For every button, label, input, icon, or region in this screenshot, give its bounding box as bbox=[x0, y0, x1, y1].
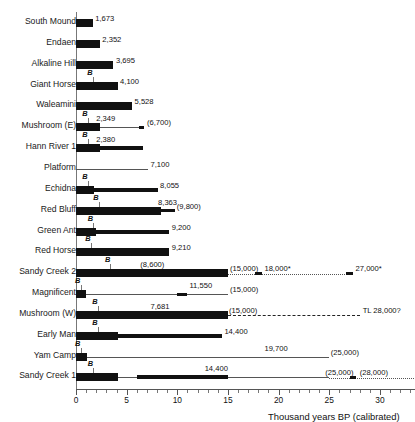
value-label: (8,600) bbox=[140, 261, 164, 269]
bar-segment-medium bbox=[118, 334, 222, 338]
b-marker-label: B bbox=[75, 340, 80, 348]
value-label: 2,380 bbox=[96, 136, 115, 144]
row-plot-area: (8,600)(15,000)18,000*27,000*B bbox=[76, 260, 414, 281]
category-label: Platform bbox=[44, 162, 76, 172]
chart-row: Platform7,100 bbox=[0, 156, 414, 177]
value-label: 2,352 bbox=[102, 36, 121, 44]
row-plot-area: 4,100B bbox=[76, 73, 414, 94]
b-marker-tick bbox=[99, 202, 100, 207]
bar-segment-solid bbox=[76, 40, 100, 48]
category-label: Sandy Creek 1 bbox=[19, 370, 76, 380]
bar-end-cap bbox=[346, 272, 353, 275]
b-marker-label: B bbox=[105, 256, 110, 264]
b-marker-tick bbox=[88, 139, 89, 144]
x-axis-major-tick bbox=[228, 390, 229, 395]
bar-extension-dotted bbox=[228, 274, 353, 275]
x-axis-minor-tick bbox=[319, 390, 320, 393]
category-label: Alkaline Hill bbox=[32, 58, 76, 68]
x-axis-minor-tick bbox=[248, 390, 249, 393]
chart-row: South Mound1,673 bbox=[0, 10, 414, 31]
bar-segment-solid bbox=[76, 248, 169, 256]
value-label: 7,681 bbox=[150, 303, 169, 311]
b-marker-label: B bbox=[88, 360, 93, 368]
x-axis-minor-tick bbox=[86, 390, 87, 393]
chart-row: Red Horse9,210B bbox=[0, 239, 414, 260]
bar-segment-solid bbox=[76, 269, 228, 277]
b-marker-label: B bbox=[88, 215, 93, 223]
bar-segment-solid bbox=[76, 353, 87, 361]
x-axis-major-tick bbox=[380, 390, 381, 395]
chart-row: Waleamini5,528 bbox=[0, 93, 414, 114]
x-axis-major-tick bbox=[329, 390, 330, 395]
chart-row: Sandy Creek 2(8,600)(15,000)18,000*27,00… bbox=[0, 260, 414, 281]
row-plot-area: 3,695 bbox=[76, 52, 414, 73]
x-axis-minor-tick bbox=[137, 390, 138, 393]
row-plot-area: 7,100 bbox=[76, 156, 414, 177]
row-plot-area: 2,380B bbox=[76, 135, 414, 156]
x-axis-major-tick bbox=[177, 390, 178, 395]
chart-row: Green Ant9,200B bbox=[0, 219, 414, 240]
value-label: (9,800) bbox=[177, 203, 201, 211]
chart-row: Magnificent11,550(15,000)B bbox=[0, 281, 414, 302]
b-marker-tick bbox=[88, 181, 89, 186]
x-axis-minor-tick bbox=[96, 390, 97, 393]
x-axis-minor-tick bbox=[238, 390, 239, 393]
value-label: (25,000) bbox=[325, 369, 353, 377]
x-axis-minor-tick bbox=[268, 390, 269, 393]
value-label: 11,550 bbox=[189, 282, 212, 290]
bar-segment-solid bbox=[76, 311, 228, 319]
category-label: Early Man bbox=[37, 329, 76, 339]
bar-segment-thin bbox=[86, 294, 228, 295]
value-label: 9,210 bbox=[172, 244, 191, 252]
x-axis-tick-label: 20 bbox=[264, 396, 294, 405]
b-marker-tick bbox=[91, 243, 92, 248]
value-label: (6,700) bbox=[147, 119, 171, 127]
b-marker-tick bbox=[88, 118, 89, 123]
category-label: Red Bluff bbox=[41, 204, 76, 214]
chart-row: Red Bluff8,363(9,800)B bbox=[0, 198, 414, 219]
x-axis-minor-tick bbox=[208, 390, 209, 393]
chart-row: Mushroom (E)2,349(6,700)B bbox=[0, 114, 414, 135]
x-axis-minor-tick bbox=[390, 390, 391, 393]
bar-segment-thin bbox=[87, 357, 330, 358]
row-plot-area: 2,352 bbox=[76, 31, 414, 52]
category-label: South Mound bbox=[25, 16, 76, 26]
value-label: 8,055 bbox=[160, 182, 179, 190]
chart-row: Mushroom (W)7,681(15,000)TL 28,000?B bbox=[0, 302, 414, 323]
x-axis-tick-label: 0 bbox=[61, 396, 91, 405]
x-axis-major-tick bbox=[127, 390, 128, 395]
x-axis-tick-label: 30 bbox=[365, 396, 395, 405]
x-axis-minor-tick bbox=[400, 390, 401, 393]
b-marker-tick bbox=[98, 306, 99, 311]
b-marker-label: B bbox=[82, 131, 87, 139]
row-plot-area: 7,681(15,000)TL 28,000?B bbox=[76, 302, 414, 323]
b-marker-tick bbox=[93, 77, 94, 82]
b-marker-label: B bbox=[85, 235, 90, 243]
bar-segment-solid bbox=[76, 290, 86, 298]
b-marker-label: B bbox=[82, 110, 87, 118]
x-axis-minor-tick bbox=[106, 390, 107, 393]
chart-row: Echidna8,055B bbox=[0, 177, 414, 198]
x-axis-minor-tick bbox=[167, 390, 168, 393]
row-plot-area: 14,400(25,000)(28,000)B bbox=[76, 364, 414, 385]
chart-row: Yam Camp19,700(25,000)B bbox=[0, 344, 414, 365]
b-marker-tick bbox=[93, 368, 94, 373]
x-axis-minor-tick bbox=[198, 390, 199, 393]
bar-segment-solid bbox=[76, 144, 100, 152]
value-label: 27,000* bbox=[356, 265, 382, 273]
x-axis-major-tick bbox=[76, 390, 77, 395]
b-marker-label: B bbox=[92, 298, 97, 306]
b-marker-tick bbox=[81, 348, 82, 353]
category-label: Waleamini bbox=[36, 99, 76, 109]
b-marker-label: B bbox=[92, 319, 97, 327]
row-plot-area: 8,363(9,800)B bbox=[76, 198, 414, 219]
row-plot-area: 1,673 bbox=[76, 10, 414, 31]
value-label: TL 28,000? bbox=[363, 307, 401, 315]
x-axis-minor-tick bbox=[309, 390, 310, 393]
x-axis-minor-tick bbox=[339, 390, 340, 393]
bar-segment-thin bbox=[76, 169, 148, 170]
value-label: 19,700 bbox=[264, 345, 287, 353]
chart-row: Hann River 12,380B bbox=[0, 135, 414, 156]
value-label: 7,100 bbox=[150, 161, 169, 169]
